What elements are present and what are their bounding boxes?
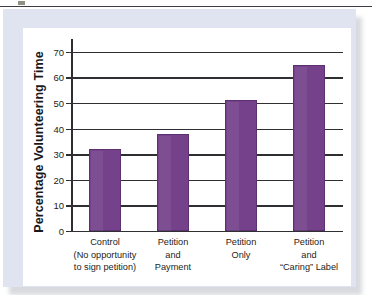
x-axis-label-line: Petition (275, 236, 343, 249)
y-axis-tick-label: 0 (59, 226, 64, 237)
x-axis-label-line: Only (207, 249, 275, 262)
x-axis-label: Petitionand“Caring” Label (275, 236, 343, 274)
x-axis-label-line: Petition (207, 236, 275, 249)
x-axis-label-line: Payment (139, 261, 207, 274)
x-axis-label-line: to sign petition) (71, 261, 139, 274)
y-axis-tick-mark (66, 103, 71, 104)
y-axis-tick-label: 60 (53, 72, 64, 83)
y-axis-tick-mark (66, 52, 71, 53)
plot-card: Percentage Volunteering Time 01020304050… (23, 28, 351, 286)
y-axis-tick-mark (66, 180, 71, 181)
y-axis-tick-mark (66, 205, 71, 206)
y-axis-tick-label: 40 (53, 123, 64, 134)
plot-area: 010203040506070 (71, 39, 343, 231)
x-axis-label-line: and (139, 249, 207, 262)
bar (293, 65, 325, 231)
y-axis-tick-label: 10 (53, 200, 64, 211)
bar-highlight (227, 102, 239, 231)
bar (157, 134, 189, 231)
y-axis-tick-label: 70 (53, 46, 64, 57)
y-axis-tick-label: 50 (53, 98, 64, 109)
x-axis-label: PetitionandPayment (139, 236, 207, 274)
x-axis-label-line: and (275, 249, 343, 262)
x-axis-label-line: Control (71, 236, 139, 249)
y-axis-tick-mark (66, 77, 71, 78)
y-axis-tick-mark (66, 231, 71, 232)
x-axis-label: Control(No opportunityto sign petition) (71, 236, 139, 274)
y-axis-tick-mark (66, 154, 71, 155)
x-axis-label-line: Petition (139, 236, 207, 249)
y-axis-tick-label: 20 (53, 174, 64, 185)
gridline (71, 52, 343, 53)
figure-panel: Percentage Volunteering Time 01020304050… (3, 9, 356, 287)
y-axis-line (71, 39, 73, 231)
bar (225, 100, 257, 231)
bar-highlight (91, 151, 103, 231)
y-axis-tick-label: 30 (53, 149, 64, 160)
bar-highlight (295, 67, 307, 231)
y-axis-title: Percentage Volunteering Time (28, 42, 50, 242)
x-axis-label-line: (No opportunity (71, 249, 139, 262)
bar (89, 149, 121, 231)
x-axis-label: PetitionOnly (207, 236, 275, 261)
scan-artifact (18, 1, 25, 5)
bar-highlight (159, 136, 171, 231)
bar-chart: Percentage Volunteering Time 01020304050… (23, 28, 351, 286)
y-axis-tick-mark (66, 129, 71, 130)
x-axis-label-line: “Caring” Label (275, 261, 343, 274)
caption-rule (0, 6, 372, 7)
